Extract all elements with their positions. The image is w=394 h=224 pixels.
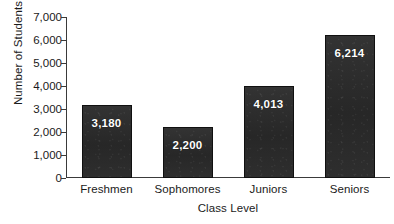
bar: 3,180	[82, 105, 132, 178]
bar-chart: Number of Students 01,0002,0003,0004,000…	[0, 0, 394, 224]
y-axis-tick-labels: 01,0002,0003,0004,0005,0006,0007,000	[8, 11, 62, 183]
bar: 2,200	[163, 127, 213, 178]
y-axis-tick-label: 3,000	[8, 103, 62, 115]
x-axis-category-label: Freshmen	[66, 183, 147, 195]
y-axis-tick-mark	[61, 40, 66, 41]
bar-value-label: 6,214	[326, 47, 374, 59]
y-axis-tick-label: 5,000	[8, 57, 62, 69]
y-axis-tick-mark	[61, 132, 66, 133]
bars-layer: 3,1802,2004,0136,214	[66, 17, 390, 178]
y-axis-tick-label: 4,000	[8, 80, 62, 92]
x-axis-title: Class Level	[66, 202, 390, 214]
plot-area: 3,1802,2004,0136,214	[66, 17, 390, 178]
x-axis-category-label: Seniors	[309, 183, 390, 195]
y-axis-tick-label: 7,000	[8, 11, 62, 23]
y-axis-tick-mark	[61, 109, 66, 110]
y-axis-tick-label: 6,000	[8, 34, 62, 46]
y-axis-tick-label: 1,000	[8, 149, 62, 161]
bar-value-label: 4,013	[245, 98, 293, 110]
y-axis-tick-mark	[61, 155, 66, 156]
y-axis-tick-mark	[61, 86, 66, 87]
y-axis-tick-label: 2,000	[8, 126, 62, 138]
y-axis-tick-mark	[61, 63, 66, 64]
y-axis-tick-mark	[61, 17, 66, 18]
y-axis-tick-mark	[61, 178, 66, 179]
x-axis-category-label: Sophomores	[147, 183, 228, 195]
x-axis-category-label: Juniors	[228, 183, 309, 195]
bar: 4,013	[244, 86, 294, 178]
x-axis-category-labels: FreshmenSophomoresJuniorsSeniors	[66, 183, 390, 199]
bar: 6,214	[325, 35, 375, 178]
bar-value-label: 2,200	[164, 139, 212, 151]
bar-value-label: 3,180	[83, 117, 131, 129]
y-axis-tick-label: 0	[8, 172, 62, 184]
